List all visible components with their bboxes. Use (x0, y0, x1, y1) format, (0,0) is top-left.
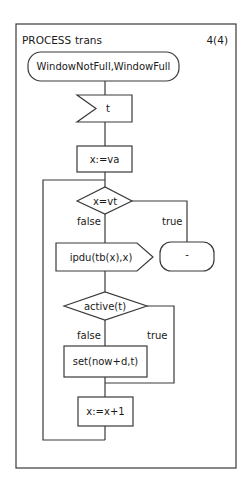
edge-label-active-true: true (147, 330, 168, 341)
state-label: - (185, 249, 189, 260)
decision-label: active(t) (84, 301, 126, 312)
process-name: trans (75, 34, 102, 46)
decision-active: active(t) (64, 292, 147, 320)
task-init: x:=va (77, 146, 132, 172)
output-label: ipdu(tb(x),x) (70, 252, 133, 263)
edge-label-active-false: false (77, 330, 101, 341)
output-signal-ipdu: ipdu(tb(x),x) (56, 243, 153, 271)
task-label: x:=x+1 (86, 406, 124, 417)
sdl-process-diagram: PROCESS trans 4(4) WindowNotFull,WindowF… (0, 0, 249, 495)
input-shape (77, 95, 132, 122)
input-signal-t: t (77, 95, 132, 122)
decision-x-vt: x=vt (77, 187, 132, 214)
task-inc: x:=x+1 (78, 397, 133, 426)
decision-label: x=vt (93, 196, 117, 207)
edge-label-x-true: true (162, 216, 183, 227)
state-label: WindowNotFull,WindowFull (37, 61, 171, 72)
input-label: t (106, 103, 110, 114)
nextstate-dash: - (160, 242, 214, 271)
task-label: set(now+d,t) (73, 356, 139, 367)
task-label: x:=va (90, 154, 120, 165)
start-state: WindowNotFull,WindowFull (28, 52, 179, 81)
edge-label-x-false: false (77, 216, 101, 227)
page-number: 4(4) (206, 34, 228, 46)
process-keyword: PROCESS (22, 34, 72, 46)
task-set: set(now+d,t) (64, 346, 147, 377)
